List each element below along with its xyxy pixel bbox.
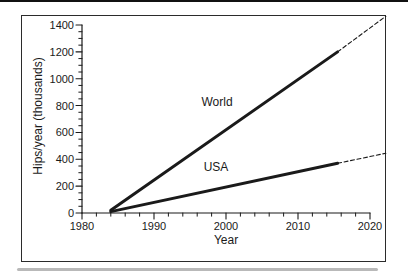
y-tick-label: 1000 bbox=[50, 73, 74, 85]
x-tick-label: 1980 bbox=[70, 220, 94, 232]
series-projection-usa bbox=[338, 153, 386, 163]
series-label-world: World bbox=[201, 95, 232, 109]
series-projection-world bbox=[338, 16, 386, 52]
x-tick-label: 2000 bbox=[214, 220, 238, 232]
x-tick-label: 2010 bbox=[286, 220, 310, 232]
y-tick-label: 1200 bbox=[50, 46, 74, 58]
y-tick-label: 200 bbox=[56, 180, 74, 192]
y-axis-label: Hips/year (thousands) bbox=[31, 57, 45, 174]
line-chart-canvas: 1980199020002010202002004006008001000120… bbox=[0, 0, 408, 277]
y-tick-label: 1400 bbox=[50, 19, 74, 31]
y-tick-label: 600 bbox=[56, 126, 74, 138]
y-tick-label: 0 bbox=[68, 207, 74, 219]
series-label-usa: USA bbox=[204, 160, 229, 174]
y-tick-label: 800 bbox=[56, 100, 74, 112]
hip-replacements-chart-figure: 1980199020002010202002004006008001000120… bbox=[0, 0, 408, 277]
x-tick-label: 2020 bbox=[358, 220, 382, 232]
x-axis-label: Year bbox=[214, 233, 238, 247]
x-tick-label: 1990 bbox=[142, 220, 166, 232]
y-tick-label: 400 bbox=[56, 153, 74, 165]
